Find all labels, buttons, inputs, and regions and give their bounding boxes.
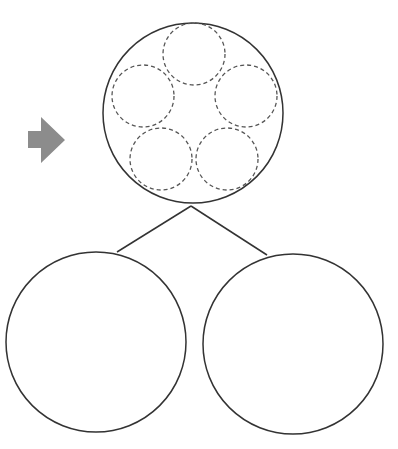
dashed-circle-bottom-left	[130, 128, 192, 190]
parent-circle	[103, 23, 283, 203]
inner-dashed-circles	[112, 23, 277, 190]
dashed-circle-bottom-right	[196, 128, 258, 190]
diagram-canvas	[0, 0, 398, 449]
connector-left	[117, 206, 191, 252]
child-circle-right	[203, 254, 383, 434]
dashed-circle-right	[215, 65, 277, 127]
connector-right	[191, 206, 267, 255]
dashed-circle-left	[112, 65, 174, 127]
right-arrow-icon	[28, 117, 65, 163]
child-circle-left	[6, 252, 186, 432]
dashed-circle-top	[163, 23, 225, 85]
